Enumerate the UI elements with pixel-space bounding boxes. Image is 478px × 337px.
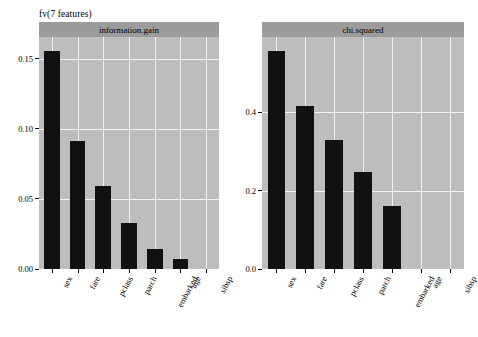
x-tick-label-text: pclass (348, 275, 366, 298)
y-tick-label: 0.2 (245, 186, 256, 196)
bar-fare (296, 106, 314, 269)
x-tick-label-sex: sex (61, 275, 74, 289)
x-tick-label-text: sex (285, 275, 298, 289)
gridline-vertical (155, 37, 156, 269)
y-tick-mark (35, 198, 39, 199)
panel-strip-label-information-gain: information.gain (40, 23, 218, 38)
y-tick-mark (258, 112, 262, 113)
bar-pclass (325, 140, 343, 269)
x-tick-mark-pclass (334, 269, 335, 273)
y-axis-information-gain: 0.000.050.100.15 (0, 22, 39, 269)
gridline-vertical (180, 37, 181, 269)
bar-embarked (383, 206, 401, 269)
panel-strip-information-gain: information.gain (39, 22, 219, 37)
x-tick-label-text: sibsp (462, 275, 478, 295)
y-tick-mark (258, 190, 262, 191)
y-tick-label: 0.10 (18, 124, 33, 134)
x-axis-chi-squared: sexfarepclassparchembarkedagesibsp (262, 269, 464, 337)
x-tick-label-parch: parch (142, 275, 159, 296)
x-tick-label-text: parch (142, 275, 159, 296)
x-tick-mark-sex (52, 269, 53, 273)
x-tick-mark-sex (276, 269, 277, 273)
x-tick-mark-embarked (155, 269, 156, 273)
panel-information-gain: information.gain (39, 22, 219, 269)
plot-area-information-gain (39, 37, 219, 269)
x-tick-label-text: fare (315, 275, 329, 291)
gridline-vertical (450, 37, 451, 269)
bar-embarked (147, 249, 163, 269)
bar-pclass (95, 186, 111, 269)
x-tick-mark-fare (305, 269, 306, 273)
panel-strip-label-chi-squared: chi.squared (263, 23, 463, 38)
y-tick-mark (35, 128, 39, 129)
bar-sex (268, 51, 286, 269)
x-tick-mark-parch (363, 269, 364, 273)
x-tick-label-sibsp: sibsp (218, 275, 234, 295)
x-tick-label-text: parch (376, 275, 393, 296)
bar-age (173, 259, 189, 269)
bar-parch (354, 172, 372, 269)
x-tick-label-sex: sex (285, 275, 298, 289)
bar-fare (70, 141, 86, 269)
y-tick-label: 0.00 (18, 264, 33, 274)
x-tick-mark-pclass (103, 269, 104, 273)
gridline-vertical (206, 37, 207, 269)
y-tick-label: 0.0 (245, 264, 256, 274)
x-tick-mark-sibsp (206, 269, 207, 273)
x-tick-mark-fare (78, 269, 79, 273)
y-tick-label: 0.15 (18, 54, 33, 64)
x-tick-mark-embarked (392, 269, 393, 273)
x-tick-mark-parch (129, 269, 130, 273)
x-tick-label-fare: fare (315, 275, 329, 291)
plot-area-chi-squared (262, 37, 464, 269)
x-tick-mark-age (180, 269, 181, 273)
x-tick-label-text: fare (88, 275, 102, 291)
x-tick-label-parch: parch (376, 275, 393, 296)
panel-strip-chi-squared: chi.squared (262, 22, 464, 37)
y-tick-mark (35, 58, 39, 59)
x-tick-mark-age (421, 269, 422, 273)
x-axis-information-gain: sexfarepclassparchembarkedagesibsp (39, 269, 219, 337)
x-tick-label-text: pclass (117, 275, 135, 298)
y-tick-label: 0.4 (245, 107, 256, 117)
y-axis-chi-squared: 0.00.20.4 (222, 22, 262, 269)
x-tick-label-fare: fare (88, 275, 102, 291)
figure-title: fv(7 features) (39, 9, 92, 20)
gridline-vertical (421, 37, 422, 269)
x-tick-label-pclass: pclass (117, 275, 135, 298)
bar-parch (121, 223, 137, 269)
y-tick-label: 0.05 (18, 194, 33, 204)
bar-sex (44, 51, 60, 269)
x-tick-label-pclass: pclass (348, 275, 366, 298)
x-tick-mark-sibsp (450, 269, 451, 273)
x-tick-label-text: sex (61, 275, 74, 289)
panel-chi-squared: chi.squared (262, 22, 464, 269)
x-tick-label-sibsp: sibsp (462, 275, 478, 295)
x-tick-label-text: sibsp (218, 275, 234, 295)
